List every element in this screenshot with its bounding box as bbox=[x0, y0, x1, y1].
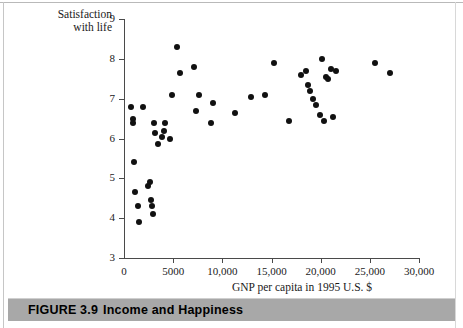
x-tick bbox=[173, 258, 174, 263]
figure-number: FIGURE 3.9 bbox=[28, 303, 98, 317]
y-tick bbox=[119, 19, 124, 20]
data-point bbox=[333, 68, 339, 74]
y-tick-label: 6 bbox=[95, 133, 115, 144]
data-point bbox=[162, 120, 168, 126]
data-point bbox=[140, 104, 146, 110]
figure-container: Satisfaction with life 3456789 0500010,0… bbox=[0, 0, 463, 290]
data-point bbox=[149, 203, 155, 209]
x-tick bbox=[419, 258, 420, 263]
y-tick bbox=[119, 218, 124, 219]
x-tick bbox=[370, 258, 371, 263]
data-point bbox=[136, 219, 142, 225]
figure-title: Income and Happiness bbox=[103, 303, 243, 317]
data-point bbox=[147, 179, 153, 185]
data-point bbox=[152, 130, 158, 136]
data-point bbox=[169, 92, 175, 98]
data-point bbox=[313, 102, 319, 108]
data-point bbox=[131, 159, 137, 165]
figure-page: Satisfaction with life 3456789 0500010,0… bbox=[0, 0, 463, 328]
data-point bbox=[128, 104, 134, 110]
data-point bbox=[262, 92, 268, 98]
data-point bbox=[130, 120, 136, 126]
figure-caption-bar: FIGURE 3.9Income and Happiness bbox=[8, 298, 455, 321]
data-point bbox=[319, 56, 325, 62]
data-point bbox=[286, 118, 292, 124]
y-tick-label: 9 bbox=[95, 13, 115, 24]
x-tick bbox=[272, 258, 273, 263]
data-point bbox=[210, 100, 216, 106]
figure-caption: FIGURE 3.9Income and Happiness bbox=[28, 302, 243, 318]
y-tick bbox=[119, 178, 124, 179]
x-axis-label: GNP per capita in 1995 U.S. $ bbox=[232, 281, 372, 294]
data-point bbox=[248, 94, 254, 100]
data-point bbox=[271, 60, 277, 66]
x-tick bbox=[321, 258, 322, 263]
data-point bbox=[161, 128, 167, 134]
x-tick bbox=[222, 258, 223, 263]
y-axis-line bbox=[124, 19, 125, 259]
y-tick-label: 3 bbox=[95, 252, 115, 263]
data-point bbox=[167, 136, 173, 142]
data-point bbox=[191, 64, 197, 70]
data-point bbox=[132, 189, 138, 195]
data-point bbox=[330, 114, 336, 120]
y-tick bbox=[119, 139, 124, 140]
data-point bbox=[317, 112, 323, 118]
data-point bbox=[159, 134, 165, 140]
data-point bbox=[193, 108, 199, 114]
data-point bbox=[307, 88, 313, 94]
data-point bbox=[177, 70, 183, 76]
x-tick-label: 30,000 bbox=[389, 266, 449, 277]
data-point bbox=[305, 82, 311, 88]
y-tick bbox=[119, 99, 124, 100]
data-point bbox=[321, 118, 327, 124]
data-point bbox=[155, 141, 161, 147]
data-point bbox=[303, 68, 309, 74]
data-point bbox=[151, 120, 157, 126]
y-tick bbox=[119, 59, 124, 60]
y-tick-label: 4 bbox=[95, 212, 115, 223]
data-point bbox=[310, 96, 316, 102]
data-point bbox=[372, 60, 378, 66]
scatter-plot: Satisfaction with life 3456789 0500010,0… bbox=[0, 0, 463, 290]
data-point bbox=[232, 110, 238, 116]
data-point bbox=[174, 44, 180, 50]
y-tick bbox=[119, 258, 124, 259]
data-point bbox=[387, 70, 393, 76]
y-tick-label: 8 bbox=[95, 53, 115, 64]
data-point bbox=[196, 92, 202, 98]
y-tick-label: 5 bbox=[95, 172, 115, 183]
y-tick-label: 7 bbox=[95, 93, 115, 104]
data-point bbox=[325, 76, 331, 82]
data-point bbox=[150, 211, 156, 217]
data-point bbox=[135, 203, 141, 209]
data-point bbox=[208, 120, 214, 126]
